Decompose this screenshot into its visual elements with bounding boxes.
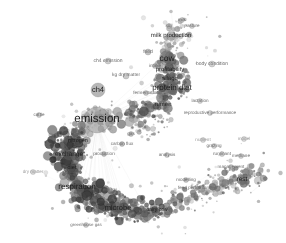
network-node-label[interactable]: diet <box>68 166 77 172</box>
network-node-label[interactable]: yield <box>146 214 155 219</box>
network-node-label[interactable]: carbon flux <box>111 142 133 147</box>
network-node-label[interactable]: body condition <box>196 62 228 67</box>
network-node-label[interactable]: production <box>93 152 114 157</box>
network-node-label[interactable]: rumen <box>154 102 171 108</box>
network-node-label[interactable]: grazing <box>206 144 221 149</box>
network-node-label[interactable]: nitrogen <box>68 139 88 145</box>
network-node-label[interactable]: management <box>218 165 245 170</box>
network-node-label[interactable]: greenhouse gas <box>70 223 102 227</box>
network-node-label[interactable]: rest <box>237 177 248 184</box>
network-visualization: emissioncowprotein dietmilk productionch… <box>0 0 286 243</box>
network-node-label[interactable]: intake <box>149 64 161 69</box>
network-node-label[interactable]: lactation <box>191 99 208 104</box>
network-node-label[interactable]: feed performance <box>178 186 214 191</box>
network-node-label[interactable]: feed <box>143 50 153 55</box>
network-node-label[interactable]: modelling <box>176 178 196 183</box>
network-node-label[interactable]: reproductive performance <box>184 111 236 116</box>
network-node-label[interactable]: silage <box>162 76 178 82</box>
network-node-label[interactable]: methane <box>232 154 250 159</box>
network-node-label[interactable]: ch4 <box>92 86 104 94</box>
network-node-label[interactable]: ch4 emission <box>93 59 122 64</box>
network-node-label[interactable]: kg dry matter <box>112 74 140 79</box>
network-node-label[interactable]: emission <box>74 114 119 126</box>
network-node-label[interactable]: microbe <box>105 204 132 212</box>
network-node-label[interactable]: exchange <box>55 152 83 159</box>
network-node-label[interactable]: cattle <box>34 113 45 118</box>
network-node-label[interactable]: model <box>238 137 251 142</box>
network-node-label[interactable]: soil <box>166 24 173 29</box>
network-node-label[interactable]: analysis <box>159 153 176 158</box>
network-node-label[interactable]: gas <box>127 132 134 137</box>
network-node-label[interactable]: cow <box>159 54 174 63</box>
network-node-label[interactable]: milk production <box>151 33 191 39</box>
network-node-label[interactable]: pasture <box>184 24 199 29</box>
network-node-label[interactable]: ruminant <box>213 152 231 157</box>
network-node-label[interactable]: energy <box>103 188 117 193</box>
network-node-label[interactable]: respiration <box>58 183 95 191</box>
network-canvas <box>0 0 286 243</box>
network-node-label[interactable]: fermentation <box>133 91 159 96</box>
network-node-label[interactable]: dry matter <box>23 170 44 175</box>
network-node-label[interactable]: nutrient <box>195 138 210 143</box>
network-node-label[interactable]: milk <box>178 18 186 23</box>
